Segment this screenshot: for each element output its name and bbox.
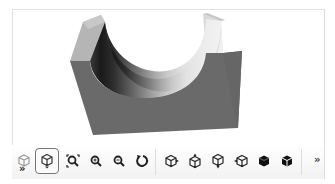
3d-viewport[interactable] — [12, 9, 325, 146]
zoom-to-fit-button[interactable] — [62, 150, 84, 172]
view-right-button[interactable] — [230, 150, 252, 172]
cube-bottom-view-icon — [210, 153, 226, 169]
rotate-icon — [134, 153, 150, 169]
zoom-in-button[interactable] — [85, 150, 107, 172]
toolbar-separator — [155, 149, 156, 175]
zoom-out-button[interactable] — [108, 150, 130, 172]
cube-front-view-icon — [187, 153, 203, 169]
view-left-button[interactable] — [161, 150, 183, 172]
zoom-in-icon — [88, 153, 104, 169]
shaded-cube-icon — [256, 153, 272, 169]
toolbar-overflow-chevron-icon[interactable]: » — [314, 154, 320, 165]
shaded-edges-button[interactable] — [276, 150, 298, 172]
shaded-button[interactable] — [253, 150, 275, 172]
zoom-fit-icon — [65, 153, 81, 169]
cube-view-icon — [39, 153, 55, 169]
view-bottom-button[interactable] — [207, 150, 229, 172]
view-front-button[interactable] — [184, 150, 206, 172]
zoom-out-icon — [111, 153, 127, 169]
toolbar-separator — [301, 149, 302, 175]
cube-right-view-icon — [233, 153, 249, 169]
left-overflow-chevron-icon[interactable]: » — [19, 163, 25, 174]
rotate-button[interactable] — [131, 150, 153, 172]
3d-model[interactable] — [13, 10, 324, 146]
shaded-edges-cube-icon — [279, 153, 295, 169]
view-selector-button[interactable] — [35, 148, 59, 174]
cube-left-view-icon — [164, 153, 180, 169]
viewer-toolbar: » » — [12, 145, 325, 179]
